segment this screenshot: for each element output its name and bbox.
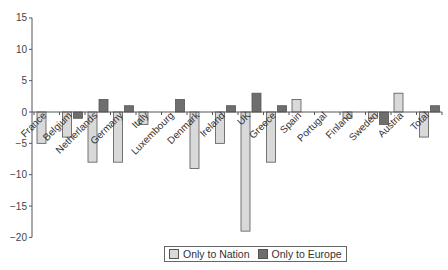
bar [176, 99, 185, 112]
bar [292, 99, 301, 112]
y-tick-label: 15 [16, 12, 28, 23]
bar [74, 112, 83, 118]
bar [125, 106, 134, 112]
y-tick-label: −20 [10, 232, 27, 243]
legend-label-europe: Only to Europe [272, 248, 342, 260]
y-tick-label: 5 [21, 75, 27, 86]
bar [99, 99, 108, 112]
y-tick-label: −15 [10, 201, 27, 212]
legend: Only to Nation Only to Europe [164, 246, 347, 262]
y-tick-label: 10 [16, 44, 28, 55]
y-tick-label: −10 [10, 169, 27, 180]
legend-swatch-europe [258, 249, 268, 259]
bar [252, 93, 261, 112]
legend-label-nation: Only to Nation [183, 248, 250, 260]
bar [431, 106, 440, 112]
y-tick-label: 0 [21, 107, 27, 118]
bar [278, 106, 287, 112]
bar-chart: 151050−5−10−15−20FranceBelgiumNetherland… [0, 0, 448, 270]
legend-swatch-nation [169, 249, 179, 259]
bar [394, 93, 403, 112]
bar [227, 106, 236, 112]
